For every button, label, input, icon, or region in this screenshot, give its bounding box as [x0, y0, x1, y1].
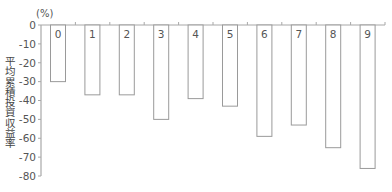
bar: 9	[360, 25, 375, 168]
y-axis: 0-10-20-30-40-50-60-70-80	[19, 19, 41, 182]
bar: 2	[119, 25, 134, 95]
bar: 1	[85, 25, 100, 95]
category-label: 7	[295, 28, 302, 40]
y-tick-label: -20	[19, 57, 36, 69]
category-label: 5	[227, 28, 234, 40]
category-label: 3	[158, 28, 165, 40]
bar: 7	[291, 25, 306, 125]
y-tick-label: -10	[19, 38, 36, 50]
category-label: 9	[364, 28, 371, 40]
bar: 0	[51, 25, 66, 82]
bar-rect	[291, 25, 306, 125]
y-tick-label: -50	[19, 113, 36, 125]
y-tick-label: -60	[19, 132, 36, 144]
category-label: 0	[55, 28, 62, 40]
bar: 6	[257, 25, 272, 136]
y-tick-label: -80	[19, 170, 36, 182]
y-tick-label: -40	[19, 94, 36, 106]
bar-chart: 0-10-20-30-40-50-60-70-80 0123456789	[0, 0, 392, 192]
bar-rect	[257, 25, 272, 136]
y-tick-label: 0	[29, 19, 36, 31]
bar: 4	[188, 25, 203, 99]
category-label: 4	[192, 28, 199, 40]
category-label: 2	[123, 28, 130, 40]
bar: 8	[326, 25, 341, 148]
bar: 5	[223, 25, 238, 106]
bar-rect	[326, 25, 341, 148]
category-label: 1	[89, 28, 96, 40]
y-tick-label: -30	[19, 75, 36, 87]
category-label: 6	[261, 28, 268, 40]
bar-series: 0123456789	[51, 25, 376, 168]
bar-rect	[360, 25, 375, 168]
bar: 3	[154, 25, 169, 119]
category-label: 8	[330, 28, 337, 40]
y-tick-label: -70	[19, 151, 36, 163]
